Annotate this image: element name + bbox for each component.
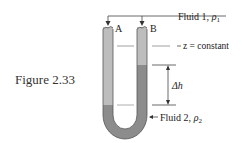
tube-a-label: A — [115, 23, 123, 34]
left-tube-fluid2 — [103, 105, 113, 115]
delta-h-label: Δh — [171, 80, 183, 91]
left-tube-fluid1 — [103, 27, 113, 105]
right-tube-fluid2 — [137, 65, 147, 115]
arrow-b-icon — [140, 21, 145, 26]
u-bend-fluid2 — [103, 115, 147, 139]
fluid2-label: Fluid 2, ρ2 — [160, 112, 202, 125]
arrow-a-icon — [106, 21, 111, 26]
arrow-fluid2-icon — [149, 115, 153, 119]
u-tube-manometer-diagram: A B Fluid 1, ρ1 z = constant Δh Fluid 2,… — [0, 0, 246, 143]
fluid1-label: Fluid 1, ρ1 — [178, 11, 220, 24]
right-tube-fluid1 — [137, 27, 147, 65]
z-constant-label: z = constant — [183, 41, 229, 51]
tube-b-label: B — [150, 23, 157, 34]
